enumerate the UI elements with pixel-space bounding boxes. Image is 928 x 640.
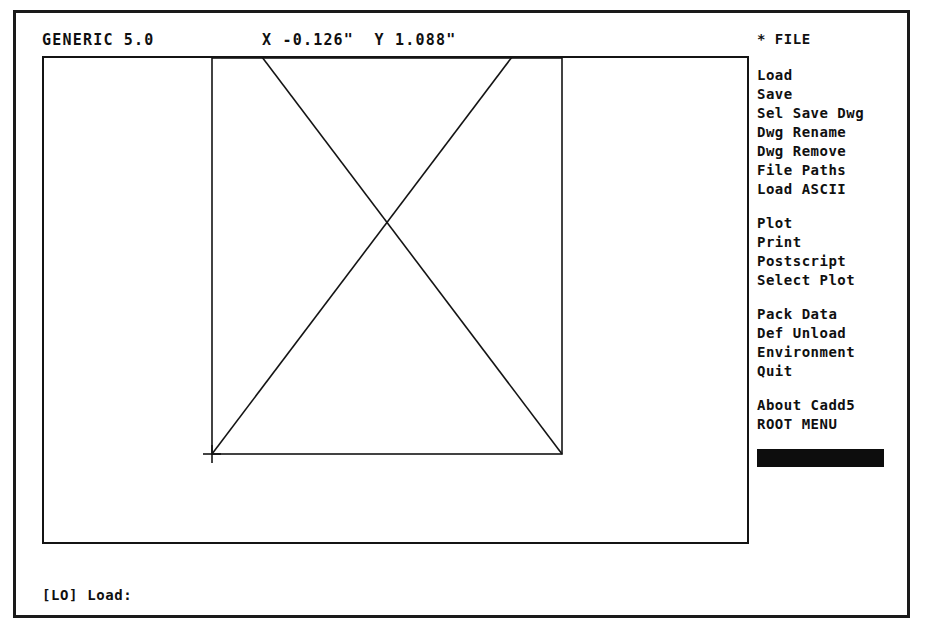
menu-item-root-menu[interactable]: ROOT MENU (757, 415, 907, 434)
menu-item-about-cadd5[interactable]: About Cadd5 (757, 396, 907, 415)
menu-group: Pack DataDef UnloadEnvironmentQuit (757, 305, 907, 381)
menu-title: * FILE (757, 30, 907, 49)
drawing-canvas[interactable] (44, 58, 747, 542)
menu-item-postscript[interactable]: Postscript (757, 252, 907, 271)
menu-item-def-unload[interactable]: Def Unload (757, 324, 907, 343)
drawing-diagonal-line (212, 58, 512, 454)
menu-group: About Cadd5ROOT MENU (757, 396, 907, 434)
command-line-1: [LO] Load: (42, 586, 742, 605)
drawing-viewport[interactable] (42, 56, 749, 544)
menu-highlight-bar[interactable] (757, 449, 884, 467)
menu-item-load[interactable]: Load (757, 66, 907, 85)
menu-item-sel-save-dwg[interactable]: Sel Save Dwg (757, 104, 907, 123)
menu-item-quit[interactable]: Quit (757, 362, 907, 381)
menu-item-load-ascii[interactable]: Load ASCII (757, 180, 907, 199)
menu-item-plot[interactable]: Plot (757, 214, 907, 233)
crosshair-cursor (203, 445, 221, 463)
menu-item-pack-data[interactable]: Pack Data (757, 305, 907, 324)
menu-group: PlotPrintPostscriptSelect Plot (757, 214, 907, 290)
cadd-screen: GENERIC 5.0 X -0.126" Y 1.088" [LO] Load… (0, 0, 928, 640)
coordinate-readout: X -0.126" Y 1.088" (262, 31, 456, 49)
menu-item-environment[interactable]: Environment (757, 343, 907, 362)
menu-item-dwg-rename[interactable]: Dwg Rename (757, 123, 907, 142)
drawing-rectangle (212, 58, 562, 454)
menu-item-select-plot[interactable]: Select Plot (757, 271, 907, 290)
menu-group: LoadSaveSel Save DwgDwg RenameDwg Remove… (757, 66, 907, 199)
drawing-shapes (212, 58, 562, 454)
menu-item-dwg-remove[interactable]: Dwg Remove (757, 142, 907, 161)
menu-item-print[interactable]: Print (757, 233, 907, 252)
file-menu-panel: * FILE LoadSaveSel Save DwgDwg RenameDwg… (757, 30, 907, 467)
menu-groups: LoadSaveSel Save DwgDwg RenameDwg Remove… (757, 66, 907, 434)
drawing-diagonal-line (262, 58, 562, 454)
page-title: GENERIC 5.0 (42, 31, 155, 49)
menu-item-save[interactable]: Save (757, 85, 907, 104)
menu-item-file-paths[interactable]: File Paths (757, 161, 907, 180)
command-prompt: [LO] Load: Enter an insert origin > Pres… (42, 548, 742, 640)
